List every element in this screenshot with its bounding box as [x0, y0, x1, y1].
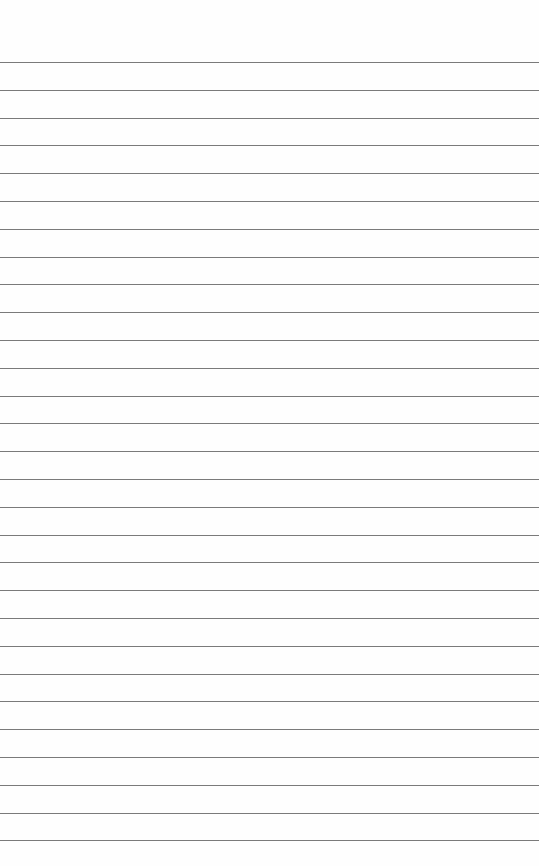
ruled-line: [0, 145, 539, 146]
ruled-line: [0, 368, 539, 369]
ruled-line: [0, 62, 539, 63]
ruled-line: [0, 840, 539, 841]
ruled-line: [0, 646, 539, 647]
ruled-line: [0, 479, 539, 480]
ruled-line: [0, 396, 539, 397]
ruled-line: [0, 90, 539, 91]
ruled-line: [0, 257, 539, 258]
ruled-line: [0, 618, 539, 619]
ruled-line: [0, 340, 539, 341]
ruled-line: [0, 118, 539, 119]
lined-paper-sheet: [0, 0, 539, 866]
ruled-line: [0, 590, 539, 591]
ruled-line: [0, 451, 539, 452]
ruled-line: [0, 201, 539, 202]
ruled-line: [0, 229, 539, 230]
ruled-line: [0, 729, 539, 730]
ruled-line: [0, 562, 539, 563]
ruled-line: [0, 813, 539, 814]
ruled-line: [0, 312, 539, 313]
ruled-line: [0, 507, 539, 508]
ruled-line: [0, 423, 539, 424]
ruled-line: [0, 284, 539, 285]
ruled-line: [0, 757, 539, 758]
ruled-line: [0, 674, 539, 675]
ruled-line: [0, 701, 539, 702]
ruled-line: [0, 535, 539, 536]
ruled-line: [0, 173, 539, 174]
ruled-line: [0, 785, 539, 786]
